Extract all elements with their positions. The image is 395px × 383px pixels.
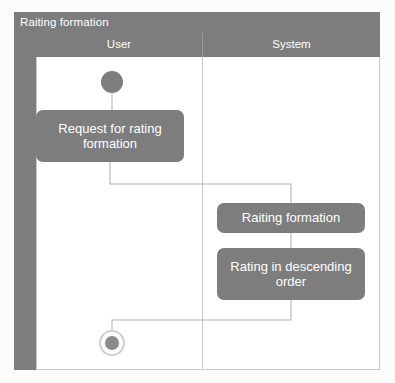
swimlane-header-user: User bbox=[36, 33, 202, 57]
swimlane-header-system: System bbox=[202, 33, 380, 57]
action-node-raiting-formation[interactable]: Raiting formation bbox=[217, 203, 365, 233]
final-node-inner-dot bbox=[105, 336, 119, 350]
diagram-title: Raiting formation bbox=[14, 17, 109, 29]
action-node-request-for-rating-formation[interactable]: Request for rating formation bbox=[36, 110, 184, 162]
swimlane-divider bbox=[202, 57, 203, 370]
activity-diagram-canvas: Raiting formation User System Request fo… bbox=[0, 0, 395, 383]
activity-frame-left-bar bbox=[14, 12, 36, 370]
swimlane-header-band: User System bbox=[36, 33, 380, 57]
action-node-rating-in-descending-order[interactable]: Rating in descending order bbox=[217, 248, 365, 300]
final-node[interactable] bbox=[99, 330, 125, 356]
initial-node[interactable] bbox=[101, 71, 123, 93]
diagram-title-bar: Raiting formation bbox=[14, 12, 380, 33]
